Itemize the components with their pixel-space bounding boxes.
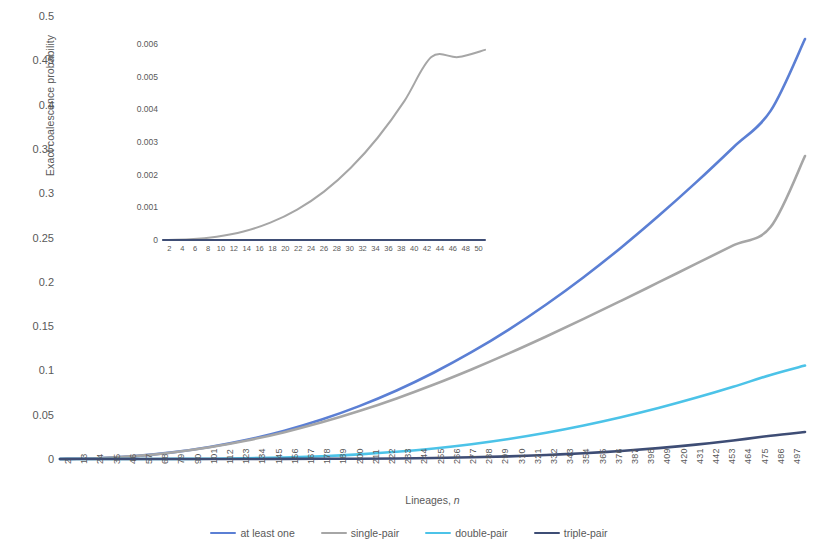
x-axis-tick-label: 57 [144, 454, 154, 464]
chart-figure: Exact coalescence probability 00.050.10.… [0, 0, 818, 549]
y-axis-tick-label: 0.05 [33, 409, 54, 421]
x-axis-tick-label: 310 [517, 448, 527, 464]
x-axis-tick-label: 475 [760, 448, 770, 464]
x-axis-tick-label: 222 [387, 448, 397, 464]
x-axis-tick-label: 101 [209, 448, 219, 464]
x-axis-tick-label: 90 [193, 454, 203, 464]
inset-y-axis-tick-label: 0.001 [137, 202, 158, 212]
legend-item-label: at least one [240, 527, 294, 539]
inset-x-axis-tick-label: 50 [474, 244, 482, 253]
x-axis-title-variable: n [454, 494, 460, 506]
x-axis-tick-label: 156 [290, 448, 300, 464]
legend-color-swatch [210, 532, 236, 535]
inset-x-axis-tick-label: 36 [384, 244, 392, 253]
x-axis-tick-label: 332 [549, 448, 559, 464]
inset-x-axis-tick-label: 14 [243, 244, 251, 253]
x-axis-tick-label: 464 [743, 448, 753, 464]
inset-x-axis-tick-label: 46 [449, 244, 457, 253]
y-axis-tick-label: 0.1 [39, 364, 54, 376]
inset-x-axis-tick-label: 26 [320, 244, 328, 253]
inset-x-axis-tick-label: 8 [206, 244, 210, 253]
x-axis-tick-label: 442 [711, 448, 721, 464]
y-axis-tick-label: 0.2 [39, 276, 54, 288]
x-axis-tick-label: 145 [274, 448, 284, 464]
inset-x-axis-tick-label: 44 [436, 244, 444, 253]
x-axis-tick-label: 244 [419, 448, 429, 464]
inset-x-axis-tick-label: 10 [217, 244, 225, 253]
inset-x-axis-tick-label: 48 [462, 244, 470, 253]
inset-x-axis-tick-label: 4 [180, 244, 184, 253]
inset-x-axis-tick-label: 20 [281, 244, 289, 253]
x-axis-tick-label: 233 [403, 448, 413, 464]
inset-y-axis-tick-label: 0.005 [137, 72, 158, 82]
inset-y-axis-tick-label: 0.002 [137, 170, 158, 180]
inset-x-axis-tick-label: 16 [255, 244, 263, 253]
x-axis-tick-label: 255 [436, 448, 446, 464]
legend-item-double-pair[interactable]: double-pair [425, 527, 508, 539]
x-axis-tick-label: 134 [257, 448, 267, 464]
inset-x-axis-tick-label: 34 [371, 244, 379, 253]
y-axis-tick-label: 0.45 [33, 54, 54, 66]
x-axis-tick-label: 299 [500, 448, 510, 464]
x-axis-tick-label: 321 [533, 448, 543, 464]
inset-y-axis-tick-label: 0.003 [137, 137, 158, 147]
x-axis-tick-label: 431 [695, 448, 705, 464]
legend-color-swatch [321, 532, 347, 535]
inset-x-axis-tick-label: 42 [423, 244, 431, 253]
y-axis-tick-label: 0.35 [33, 143, 54, 155]
inset-x-axis-tick-label: 32 [358, 244, 366, 253]
x-axis-tick-label: 376 [614, 448, 624, 464]
legend-item-single-pair[interactable]: single-pair [321, 527, 399, 539]
inset-y-axis-tick-label: 0.006 [137, 39, 158, 49]
inset-x-axis-tick-label: 40 [410, 244, 418, 253]
x-axis-title-text: Lineages, [405, 494, 453, 506]
x-axis-tick-label: 167 [306, 448, 316, 464]
inset-x-axis-tick-label: 24 [307, 244, 315, 253]
inset-x-axis-tick-label: 6 [193, 244, 197, 253]
inset-x-axis-tick-label: 28 [333, 244, 341, 253]
x-axis-tick-label: 178 [322, 448, 332, 464]
x-axis-tick-label: 13 [79, 454, 89, 464]
y-axis-tick-label: 0.4 [39, 99, 54, 111]
y-axis-tick-label: 0.25 [33, 232, 54, 244]
x-axis-tick-label: 354 [581, 448, 591, 464]
x-axis-tick-label: 211 [371, 449, 381, 464]
series-line-triple-pair [60, 432, 805, 459]
x-axis-tick-label: 46 [128, 454, 138, 464]
x-axis-tick-label: 200 [355, 448, 365, 464]
legend-item-at-least-one[interactable]: at least one [210, 527, 294, 539]
y-axis-tick-label: 0.3 [39, 187, 54, 199]
inset-x-axis-tick-label: 30 [346, 244, 354, 253]
y-axis-tick-label: 0 [48, 453, 54, 465]
x-axis-tick-label: 266 [452, 448, 462, 464]
legend-item-label: triple-pair [564, 527, 608, 539]
y-axis-tick-label: 0.15 [33, 320, 54, 332]
inset-chart-canvas [163, 44, 485, 240]
x-axis-tick-label: 112 [225, 449, 235, 464]
y-axis-tick-label: 0.5 [39, 10, 54, 22]
legend-item-label: single-pair [351, 527, 399, 539]
x-axis-title: Lineages, n [60, 494, 805, 506]
inset-x-axis-tick-label: 12 [230, 244, 238, 253]
series-line-single-pair [163, 50, 485, 240]
inset-x-axis-tick-label: 22 [294, 244, 302, 253]
x-axis-tick-label: 288 [484, 448, 494, 464]
inset-y-axis-tick-label: 0 [153, 235, 158, 245]
x-axis-tick-label: 420 [679, 448, 689, 464]
x-axis-tick-label: 277 [468, 448, 478, 464]
x-axis-tick-label: 189 [338, 448, 348, 464]
legend-color-swatch [425, 532, 451, 535]
inset-plot-area: 00.0010.0020.0030.0040.0050.006 24681012… [163, 44, 485, 240]
inset-x-axis-tick-label: 2 [167, 244, 171, 253]
x-axis-tick-label: 35 [112, 454, 122, 464]
x-axis-tick-label: 365 [598, 448, 608, 464]
main-plot-area: Exact coalescence probability 00.050.10.… [60, 16, 805, 459]
x-axis-tick-label: 486 [776, 448, 786, 464]
x-axis-tick-label: 387 [630, 448, 640, 464]
legend-item-triple-pair[interactable]: triple-pair [534, 527, 608, 539]
chart-legend: at least onesingle-pairdouble-pairtriple… [0, 527, 818, 539]
x-axis-tick-label: 497 [792, 448, 802, 464]
inset-x-axis-tick-label: 38 [397, 244, 405, 253]
x-axis-tick-label: 453 [727, 448, 737, 464]
x-axis-tick-label: 79 [176, 454, 186, 464]
